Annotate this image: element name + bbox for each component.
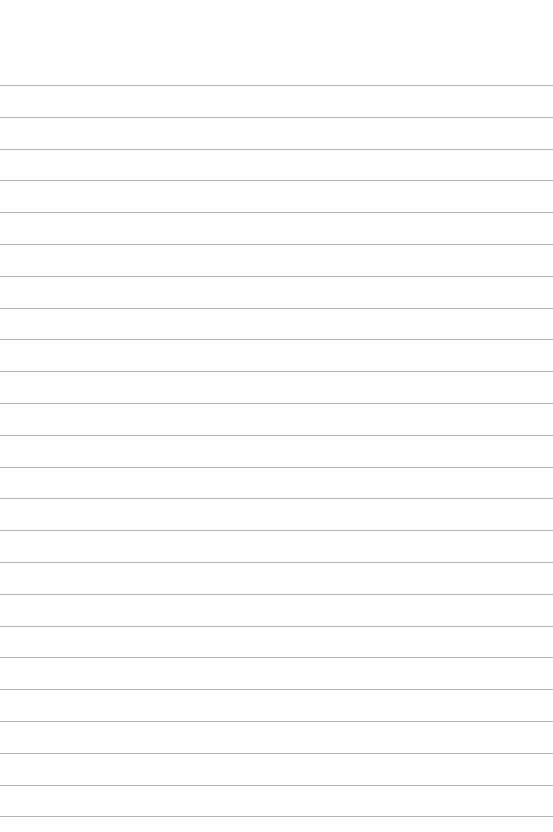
ruled-line xyxy=(0,244,553,245)
ruled-line xyxy=(0,403,553,404)
ruled-line xyxy=(0,467,553,468)
ruled-line xyxy=(0,753,553,754)
ruled-line xyxy=(0,594,553,595)
ruled-line xyxy=(0,689,553,690)
ruled-line xyxy=(0,85,553,86)
ruled-line xyxy=(0,721,553,722)
ruled-line xyxy=(0,562,553,563)
ruled-line xyxy=(0,626,553,627)
ruled-line xyxy=(0,371,553,372)
ruled-line xyxy=(0,339,553,340)
ruled-line xyxy=(0,816,553,817)
ruled-line xyxy=(0,212,553,213)
ruled-line xyxy=(0,657,553,658)
ruled-line xyxy=(0,435,553,436)
ruled-line xyxy=(0,785,553,786)
ruled-line xyxy=(0,117,553,118)
ruled-line xyxy=(0,180,553,181)
ruled-line xyxy=(0,308,553,309)
ruled-line xyxy=(0,498,553,499)
ruled-line xyxy=(0,276,553,277)
ruled-line xyxy=(0,530,553,531)
ruled-line xyxy=(0,149,553,150)
